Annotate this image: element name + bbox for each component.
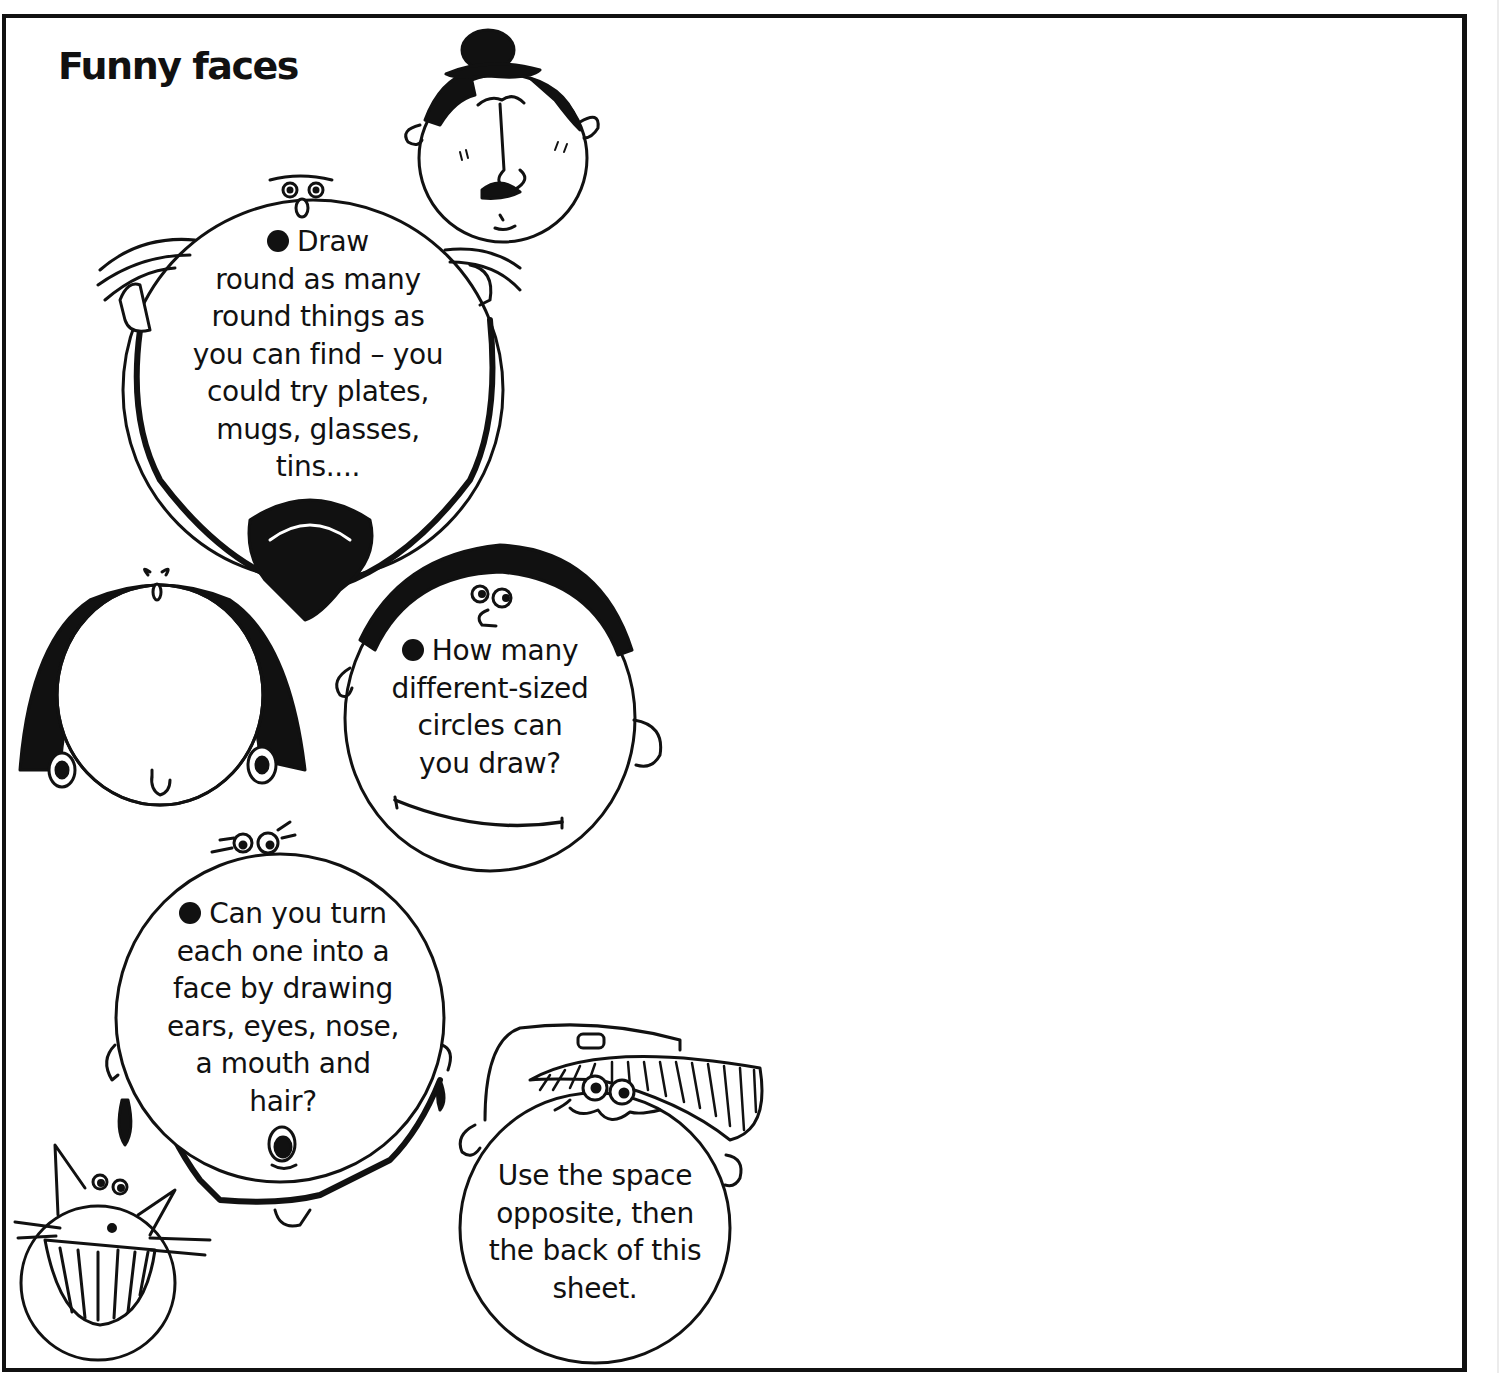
instruction-line: face by drawing xyxy=(148,970,418,1008)
instruction-line: tins.... xyxy=(168,448,468,486)
instruction-line: Can you turn xyxy=(148,895,418,933)
instruction-line: could try plates, xyxy=(168,373,468,411)
bullet-icon xyxy=(179,902,201,924)
instruction-line: hair? xyxy=(148,1083,418,1121)
instruction-line: How many xyxy=(370,632,610,670)
instruction-line: sheet. xyxy=(470,1270,720,1308)
instruction-line: a mouth and xyxy=(148,1045,418,1083)
curly-hair-face xyxy=(20,569,305,805)
instruction-turn-into-face: Can you turn each one into a face by dra… xyxy=(148,895,418,1120)
instruction-line: circles can xyxy=(370,707,610,745)
instruction-line: Draw xyxy=(168,223,468,261)
grinning-cat-face xyxy=(15,1145,210,1360)
bullet-icon xyxy=(267,230,289,252)
instruction-line: you can find – you xyxy=(168,336,468,374)
instruction-line: each one into a xyxy=(148,933,418,971)
instruction-draw-round-things: Draw round as many round things as you c… xyxy=(168,223,468,486)
instruction-line: the back of this xyxy=(470,1232,720,1270)
bullet-icon xyxy=(402,639,424,661)
instruction-line: opposite, then xyxy=(470,1195,720,1233)
instruction-line: Use the space xyxy=(470,1157,720,1195)
instruction-line: mugs, glasses, xyxy=(168,411,468,449)
instruction-how-many-circles: How many different-sized circles can you… xyxy=(370,632,610,782)
instruction-line: round as many xyxy=(168,261,468,299)
illustrations xyxy=(0,0,1508,1373)
instruction-line: you draw? xyxy=(370,745,610,783)
instruction-line: round things as xyxy=(168,298,468,336)
instruction-line: different-sized xyxy=(370,670,610,708)
bowler-hat-moustache-face xyxy=(406,30,598,242)
instruction-line: ears, eyes, nose, xyxy=(148,1008,418,1046)
instruction-use-space-opposite: Use the space opposite, then the back of… xyxy=(470,1157,720,1307)
